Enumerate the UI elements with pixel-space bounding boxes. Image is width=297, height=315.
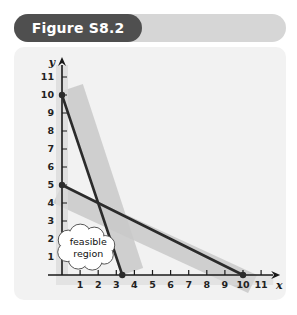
y-tick-label: 9 xyxy=(47,107,54,118)
data-point-marker xyxy=(119,272,125,278)
y-tick-label: 5 xyxy=(47,179,54,190)
x-tick-label: 6 xyxy=(167,279,174,290)
page-title: Figure S8.2 xyxy=(14,14,142,42)
callout-line-1: feasible xyxy=(70,236,107,247)
callout-line-2: region xyxy=(73,248,103,259)
x-tick-label: 2 xyxy=(95,279,102,290)
y-tick-label: 4 xyxy=(47,197,54,208)
data-point-marker xyxy=(59,92,65,98)
y-tick-label: 1 xyxy=(47,251,54,262)
plot-area: 12345678910111234567891011yxfeasibleregi… xyxy=(14,47,286,300)
chart-svg: 12345678910111234567891011yxfeasibleregi… xyxy=(14,47,286,300)
y-tick-label: 6 xyxy=(47,161,54,172)
y-tick-label: 11 xyxy=(41,71,54,82)
y-tick-label: 10 xyxy=(41,89,55,100)
y-tick-label: 8 xyxy=(47,125,54,136)
x-tick-label: 9 xyxy=(222,279,229,290)
y-tick-label: 2 xyxy=(47,233,54,244)
data-point-marker xyxy=(59,182,65,188)
figure-panel: Figure S8.2 12345678910111234567891011yx… xyxy=(0,0,297,315)
y-axis-arrow xyxy=(58,57,66,66)
y-tick-label: 3 xyxy=(47,215,54,226)
x-tick-label: 4 xyxy=(131,279,138,290)
figure-header: Figure S8.2 xyxy=(14,14,286,42)
x-axis-label: x xyxy=(275,279,283,292)
x-tick-label: 5 xyxy=(149,279,156,290)
x-tick-label: 1 xyxy=(77,279,84,290)
y-axis-label: y xyxy=(48,56,57,69)
x-tick-label: 7 xyxy=(185,279,192,290)
data-point-marker xyxy=(240,272,246,278)
x-tick-label: 3 xyxy=(113,279,120,290)
x-tick-label: 8 xyxy=(203,279,210,290)
y-tick-label: 7 xyxy=(47,143,54,154)
x-tick-label: 10 xyxy=(236,279,250,290)
x-tick-label: 11 xyxy=(254,279,267,290)
